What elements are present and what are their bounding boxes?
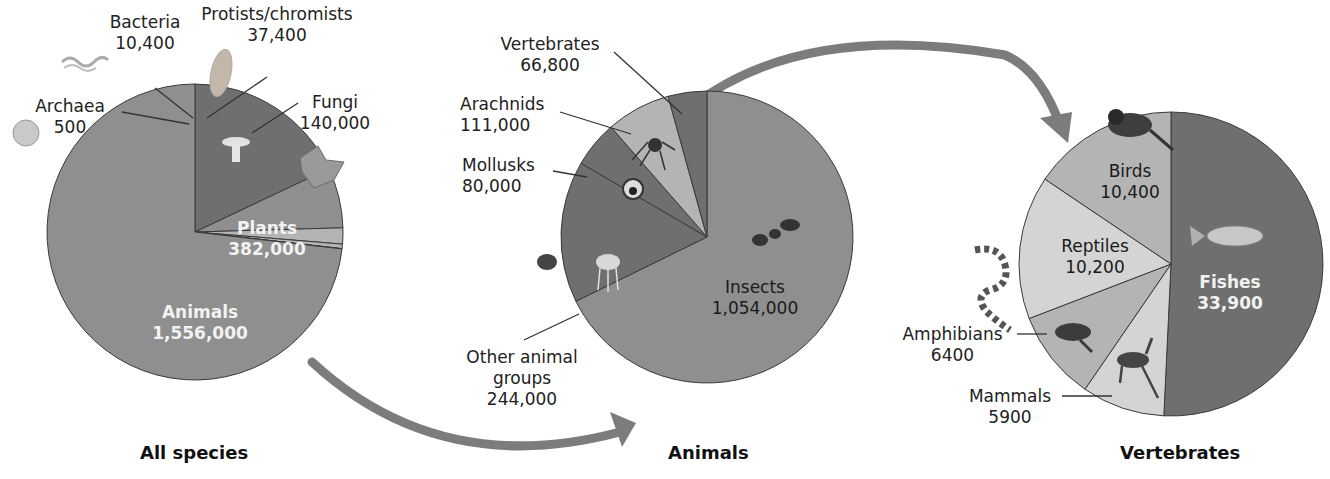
label-plants-name: Plants [222,218,312,239]
label-vertebrates-value: 66,800 [495,55,605,76]
label-vertebrates: Vertebrates 66,800 [495,34,605,76]
label-archaea-name: Archaea [30,96,110,117]
pie-animals [561,91,853,383]
label-animals-name: Animals [140,302,260,323]
label-other-animal-groups: Other animal groups 244,000 [452,347,592,410]
label-mollusks: Mollusks 80,000 [462,155,552,197]
label-animals: Animals 1,556,000 [140,302,260,344]
label-protists-value: 37,400 [192,25,362,46]
label-fishes-name: Fishes [1190,272,1270,293]
label-arachnids-value: 111,000 [460,115,558,136]
label-amphibians-name: Amphibians [895,324,1010,345]
crab-icon [537,254,557,270]
label-birds-value: 10,400 [1090,182,1170,203]
label-other-value: 244,000 [452,389,592,410]
label-plants-value: 382,000 [222,239,312,260]
label-amphibians-value: 6400 [895,345,1010,366]
label-bacteria-name: Bacteria [100,12,190,33]
label-amphibians: Amphibians 6400 [895,324,1010,366]
label-fungi-name: Fungi [290,92,380,113]
label-animals-value: 1,556,000 [140,323,260,344]
label-vertebrates-name: Vertebrates [495,34,605,55]
label-reptiles-value: 10,200 [1050,257,1140,278]
label-mollusks-name: Mollusks [462,155,552,176]
label-fishes-value: 33,900 [1190,293,1270,314]
label-insects-value: 1,054,000 [700,298,810,319]
label-mollusks-value: 80,000 [462,176,552,197]
label-insects-name: Insects [700,277,810,298]
label-fungi: Fungi 140,000 [290,92,380,134]
label-protists-name: Protists/chromists [192,4,362,25]
label-archaea-value: 500 [30,117,110,138]
label-arachnids: Arachnids 111,000 [460,94,558,136]
label-birds-name: Birds [1090,161,1170,182]
label-reptiles: Reptiles 10,200 [1050,236,1140,278]
label-reptiles-name: Reptiles [1050,236,1140,257]
title-vertebrates: Vertebrates [1120,442,1240,463]
label-protists: Protists/chromists 37,400 [192,4,362,46]
label-archaea: Archaea 500 [30,96,110,138]
label-insects: Insects 1,054,000 [700,277,810,319]
label-other-name-line1: Other animal [452,347,592,368]
label-mammals-value: 5900 [960,407,1060,428]
label-mammals-name: Mammals [960,386,1060,407]
label-arachnids-name: Arachnids [460,94,558,115]
snake-icon [975,249,1010,330]
label-other-name-line2: groups [452,368,592,389]
species-diversity-figure: Archaea 500 Bacteria 10,400 Protists/chr… [0,0,1330,479]
slice-fishes [1164,112,1323,416]
snail-icon [623,179,643,199]
label-plants: Plants 382,000 [222,218,312,260]
title-animals: Animals [668,442,749,463]
bacteria-icon [62,57,108,71]
label-bacteria-value: 10,400 [100,33,190,54]
label-fishes: Fishes 33,900 [1190,272,1270,314]
label-fungi-value: 140,000 [290,113,380,134]
label-mammals: Mammals 5900 [960,386,1060,428]
label-bacteria: Bacteria 10,400 [100,12,190,54]
title-all-species: All species [140,442,248,463]
label-birds: Birds 10,400 [1090,161,1170,203]
